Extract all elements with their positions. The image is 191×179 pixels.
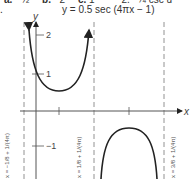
upper-branch	[29, 30, 89, 91]
asymptote-label-1: x = −1/8 + 1/(4π)	[4, 133, 10, 178]
asymptote-label-3: x = 3/8 + 1/(4π)	[170, 137, 176, 179]
y-tick-2: 2	[46, 30, 51, 40]
x-axis-label: x	[183, 106, 190, 117]
sec-graph: 2 1 −1 y x	[0, 0, 191, 179]
y-axis-label: y	[32, 11, 39, 22]
y-tick-1: 1	[46, 69, 51, 79]
lower-branch	[101, 128, 157, 179]
y-tick-neg1: −1	[46, 141, 56, 151]
asymptote-label-2: x = 1/8 + 1/(4π)	[76, 137, 82, 179]
